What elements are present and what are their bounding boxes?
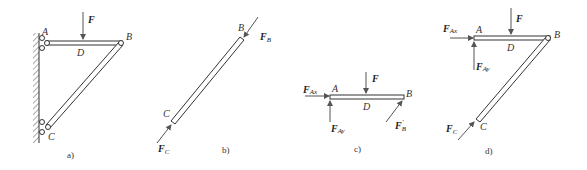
label-FC: FC [157,143,170,156]
force-FC-arrow [157,125,171,143]
panel-a: F A B C D a) [33,12,132,160]
pin-A-bottom [40,46,45,51]
beam-AB [330,95,404,99]
label-FAy: FAy [475,61,491,73]
label-A: A [475,24,483,35]
label-B: B [554,29,560,40]
label-C: C [48,131,55,142]
label-C: C [163,108,170,119]
label-FAx: FAx [302,84,318,96]
label-FAy: FAy [330,123,346,135]
strut-BC [46,42,123,128]
force-FB-prime-arrow [386,101,402,122]
beam-AB [46,41,122,45]
label-F: F [515,13,523,24]
label-B: B [126,31,132,42]
label-A: A [41,26,49,37]
caption-c: c) [354,144,361,154]
two-force-member-BC [171,37,244,124]
pin-B [546,36,551,41]
label-FC: FC [445,123,458,136]
pin-B [119,41,124,46]
label-B: B [238,22,244,33]
label-F: F [371,73,379,84]
pin-C [46,125,51,130]
pin-A [45,41,50,46]
label-C: C [480,121,487,132]
beam-AB [474,36,550,40]
panel-b: B C FB FC b) [157,17,272,156]
force-FC-arrow [458,122,474,140]
wall-hatching [33,33,39,143]
force-FB-arrow [244,17,258,37]
label-B: B [406,88,412,99]
caption-b: b) [222,145,230,155]
label-A: A [331,83,339,94]
panel-d: F FAx FAy FC A B C D d) [442,8,560,156]
free-body-diagram-figure: F A B C D a) B C FB FC b) F FAx FAy FB' … [0,0,587,170]
panel-c: F FAx FAy FB' A B D c) [302,72,412,154]
label-D: D [362,101,371,112]
pin-C-top [40,120,45,125]
caption-d: d) [485,146,493,156]
label-FB: FB [259,31,272,44]
label-F: F [87,14,95,25]
pin-C-bottom [40,130,45,135]
label-D: D [76,47,85,58]
label-FAx: FAx [442,23,458,35]
caption-a: a) [67,150,74,160]
label-D: D [506,42,515,53]
label-FB-prime: FB' [394,118,407,133]
